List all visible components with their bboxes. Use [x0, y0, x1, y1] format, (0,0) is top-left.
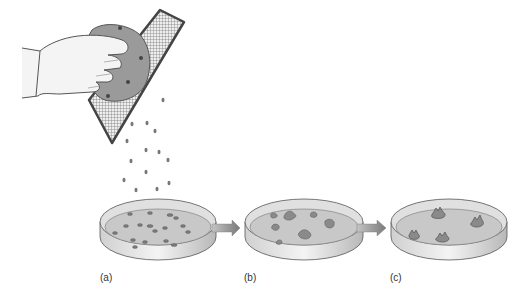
petri-dish-c: [391, 199, 507, 260]
panel-label-c: (c): [390, 272, 402, 283]
petri-dish-b: [245, 199, 363, 260]
petri-dish-a: [100, 199, 216, 260]
panel-label-a: (a): [100, 272, 112, 283]
figure: [0, 0, 514, 306]
panel-label-b: (b): [244, 272, 256, 283]
